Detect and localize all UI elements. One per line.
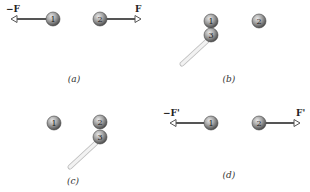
glass-rod — [182, 41, 207, 64]
panel-d: −F'F'12(d) — [163, 108, 305, 180]
charged-sphere-3: 3 — [93, 130, 107, 144]
charged-sphere-1: 1 — [204, 116, 218, 130]
sphere-label: 2 — [256, 119, 261, 128]
panel-b: 132(b) — [182, 14, 266, 84]
sphere-label: 3 — [97, 133, 102, 142]
force-arrow: F' — [266, 108, 305, 127]
force-arrow: −F' — [163, 108, 204, 127]
sphere-label: 1 — [50, 15, 55, 24]
sphere-label: 2 — [97, 118, 102, 127]
sphere-label: 2 — [256, 17, 261, 26]
diagram-canvas: −FF12(a)132(b)123(c)−F'F'12(d) — [0, 0, 310, 192]
sphere-label: 2 — [97, 15, 102, 24]
charged-sphere-1: 1 — [47, 116, 61, 130]
panel-caption: (a) — [68, 74, 81, 84]
sphere-label: 1 — [208, 119, 213, 128]
charged-sphere-2: 2 — [93, 12, 107, 26]
sphere-label: 1 — [51, 119, 56, 128]
panel-a: −FF12(a) — [6, 4, 142, 84]
panel-caption: (c) — [67, 176, 80, 186]
force-arrow: F — [107, 4, 142, 23]
sphere-label: 1 — [208, 17, 213, 26]
charged-sphere-1: 1 — [204, 14, 218, 28]
force-label: F' — [296, 108, 305, 118]
panel-c: 123(c) — [47, 115, 107, 186]
charged-sphere-2: 2 — [252, 116, 266, 130]
panel-caption: (d) — [223, 170, 236, 180]
charged-sphere-2: 2 — [252, 14, 266, 28]
force-arrow: −F — [6, 4, 46, 23]
charged-sphere-1: 1 — [46, 12, 60, 26]
force-label: F — [135, 4, 142, 14]
glass-rod — [70, 143, 96, 167]
force-label: −F — [6, 4, 21, 14]
charged-sphere-2: 2 — [93, 115, 107, 129]
panel-caption: (b) — [223, 74, 236, 84]
sphere-label: 3 — [208, 31, 213, 40]
force-label: −F' — [163, 108, 180, 118]
charged-sphere-3: 3 — [204, 28, 218, 42]
